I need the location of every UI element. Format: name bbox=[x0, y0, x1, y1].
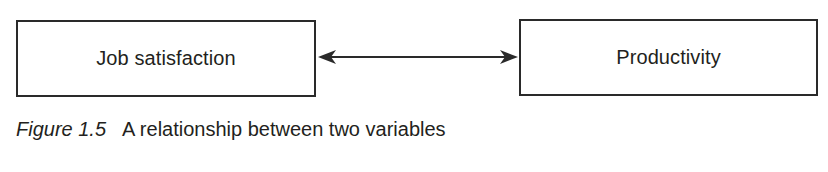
node-job-satisfaction: Job satisfaction bbox=[16, 20, 316, 97]
bidirectional-arrow-icon bbox=[316, 47, 520, 67]
figure-number: Figure 1.5 bbox=[16, 118, 106, 140]
node-label: Job satisfaction bbox=[96, 47, 235, 70]
caption-text: A relationship between two variables bbox=[122, 118, 446, 140]
node-productivity: Productivity bbox=[519, 19, 818, 96]
figure-caption: Figure 1.5A relationship between two var… bbox=[16, 118, 446, 141]
node-label: Productivity bbox=[616, 46, 721, 69]
